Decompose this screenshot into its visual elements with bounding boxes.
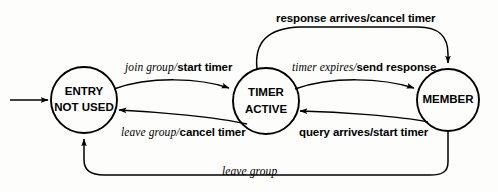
state-label-member-line1: MEMBER — [422, 93, 474, 105]
edge-label-leave-group: leave group — [222, 162, 277, 179]
edge-event-query-arrives: query arrives — [299, 126, 370, 138]
edge-event-response-arrives: response arrives — [276, 12, 366, 24]
edge-action-leave-group-cancel-timer: cancel timer — [180, 126, 246, 138]
edge-action-join-group: start timer — [177, 61, 232, 73]
edge-label-response-arrives: response arrives/cancel timer — [276, 9, 436, 26]
edge-join-group — [114, 80, 229, 89]
edge-label-query-arrives: query arrives/start timer — [299, 123, 428, 140]
edge-timer-expires — [295, 80, 414, 89]
edge-action-response-arrives: cancel timer — [370, 12, 436, 24]
edge-event-timer-expires: timer expires — [292, 61, 353, 73]
edge-leave-group-cancel-timer — [119, 110, 247, 124]
edge-label-join-group: join group/start timer — [125, 58, 232, 75]
edge-label-leave-group-cancel-timer: leave group/cancel timer — [121, 123, 246, 140]
state-diagram: ENTRY NOT USED TIMER ACTIVE MEMBER join … — [0, 0, 498, 192]
edge-action-timer-expires: send response — [357, 61, 437, 73]
state-label-timer-active-line1: TIMER — [248, 86, 284, 98]
state-entry-not-used[interactable] — [51, 67, 117, 133]
state-label-entry-not-used-line2: NOT USED — [54, 101, 113, 113]
edge-event-leave-group: leave group — [222, 165, 277, 177]
edge-event-join-group: join group — [125, 61, 174, 73]
state-label-timer-active-line2: ACTIVE — [245, 103, 288, 115]
edge-query-arrives — [300, 111, 428, 122]
edge-action-query-arrives: start timer — [373, 126, 428, 138]
edge-label-timer-expires: timer expires/send response — [292, 58, 436, 75]
edge-event-leave-group-cancel-timer: leave group — [121, 126, 176, 138]
state-label-entry-not-used-line1: ENTRY — [65, 85, 104, 97]
